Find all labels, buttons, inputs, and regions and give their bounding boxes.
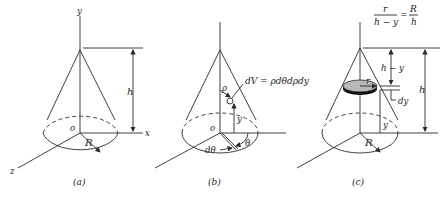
cone-side-left xyxy=(47,50,80,120)
dtheta-arrow xyxy=(220,148,232,150)
theta-label: θ xyxy=(245,138,250,148)
base-ellipse-front xyxy=(322,133,398,153)
dy-label: dy xyxy=(398,96,408,106)
ratio-num-left: r xyxy=(383,4,388,14)
caption-b: (b) xyxy=(208,177,221,187)
height-label: h xyxy=(127,86,133,97)
panel-c: r r h − y = R h h − y dy y h R (c) xyxy=(297,4,440,187)
radius-label: R xyxy=(364,137,373,148)
x-axis-label: x xyxy=(145,128,150,138)
caption-a: (a) xyxy=(73,177,86,187)
caption-c: (c) xyxy=(352,177,365,187)
wedge-line-1 xyxy=(220,133,236,150)
ratio-num-right: R xyxy=(409,4,417,14)
origin-label: o xyxy=(210,123,215,133)
base-ellipse-back xyxy=(43,116,118,133)
origin-label: o xyxy=(70,123,75,133)
cone-diagram-svg: y x z o R h (a) o xyxy=(0,0,446,197)
z-axis-label: z xyxy=(9,166,15,176)
y-label: y xyxy=(382,120,388,130)
panel-a: y x z o R h (a) xyxy=(9,6,150,187)
ratio-den-right: h xyxy=(411,17,417,27)
volume-element xyxy=(227,98,233,104)
cone-figure: y x z o R h (a) o xyxy=(0,0,446,197)
rho-label: ρ xyxy=(221,83,227,93)
cone-side-left xyxy=(186,50,220,120)
panel-b: o ρ dV = ρdθdρdy y dθ θ (b) xyxy=(155,22,310,187)
wedge-line-2 xyxy=(222,133,238,149)
y-axis-label: y xyxy=(76,6,82,16)
depth-axis xyxy=(297,133,360,168)
height-label: h xyxy=(419,84,425,95)
cone-side-right xyxy=(80,50,115,120)
radius-label: R xyxy=(84,137,93,148)
ratio-den-left: h − y xyxy=(374,17,399,27)
volume-element-equation: dV = ρdθdρdy xyxy=(245,76,310,86)
h-minus-y-label: h − y xyxy=(381,63,404,73)
z-axis xyxy=(18,133,80,168)
ratio-equals: = xyxy=(400,10,408,20)
y-label: y xyxy=(236,114,242,124)
dtheta-label: dθ xyxy=(205,145,216,155)
